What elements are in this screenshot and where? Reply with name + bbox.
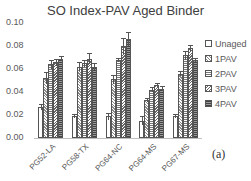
error-bar — [142, 116, 143, 125]
error-bar — [89, 53, 90, 65]
error-cap — [188, 45, 193, 46]
legend-swatch-icon — [205, 70, 212, 77]
panel-label: (a) — [212, 147, 225, 162]
bar-PG67-MS-4PAV — [193, 60, 198, 138]
y-tick-4: 0.02 — [6, 109, 32, 119]
chart-title: SO Index-PAV Aged Binder — [0, 3, 251, 18]
y-tick-3: 0.04 — [6, 86, 32, 96]
legend-label: Unaged — [215, 39, 247, 49]
error-bar — [185, 51, 186, 60]
legend-label: 1PAV — [215, 54, 237, 64]
bar-PG64-MS-4PAV — [159, 89, 164, 138]
y-tick-1: 0.08 — [6, 40, 32, 50]
bar-PG64-NC-4PAV — [126, 39, 131, 138]
x-label-PG52-LA: PG52-LA — [23, 142, 58, 177]
error-bar — [94, 63, 95, 70]
error-bar — [46, 72, 47, 84]
error-bar — [123, 38, 124, 54]
error-bar — [190, 45, 191, 52]
error-bar — [128, 32, 129, 46]
error-bar — [79, 62, 80, 71]
legend-item-Unaged: Unaged — [205, 36, 247, 51]
error-cap — [126, 32, 131, 33]
legend-item-1PAV: 1PAV — [205, 51, 247, 66]
error-cap — [49, 60, 54, 61]
error-cap — [87, 53, 92, 54]
y-tick-2: 0.06 — [6, 63, 32, 73]
error-bar — [51, 60, 52, 69]
plot-area — [34, 23, 202, 138]
legend-label: 3PAV — [215, 84, 237, 94]
legend: Unaged1PAV2PAV3PAV4PAV — [205, 36, 247, 111]
legend-item-4PAV: 4PAV — [205, 96, 247, 111]
error-bar — [84, 60, 85, 67]
error-bar — [108, 113, 109, 120]
error-cap — [155, 83, 160, 84]
error-cap — [160, 86, 165, 87]
bar-PG52-LA-4PAV — [58, 59, 63, 138]
legend-swatch-icon — [205, 40, 212, 47]
legend-item-2PAV: 2PAV — [205, 66, 247, 81]
legend-swatch-icon — [205, 85, 212, 92]
error-bar — [41, 104, 42, 111]
x-label-PG64-NC: PG64-NC — [90, 142, 125, 177]
error-bar — [113, 75, 114, 84]
x-label-PG58-TX: PG58-TX — [56, 142, 91, 177]
legend-item-3PAV: 3PAV — [205, 81, 247, 96]
y-tick-0: 0.10 — [6, 17, 32, 27]
error-cap — [193, 58, 198, 59]
x-label-PG67-MS: PG67-MS — [157, 142, 192, 177]
legend-label: 4PAV — [215, 99, 237, 109]
legend-swatch-icon — [205, 100, 212, 107]
legend-label: 2PAV — [215, 69, 237, 79]
error-cap — [92, 63, 97, 64]
y-tick-5: 0.00 — [6, 132, 32, 142]
x-axis — [34, 138, 202, 139]
bar-PG58-TX-4PAV — [92, 67, 97, 138]
legend-swatch-icon — [205, 55, 212, 62]
error-bar — [56, 59, 57, 66]
error-cap — [59, 56, 64, 57]
x-label-PG64-MS: PG64-MS — [123, 142, 158, 177]
